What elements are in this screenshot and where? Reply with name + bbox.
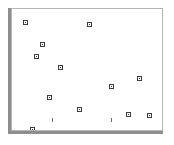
data-point — [126, 112, 131, 117]
data-point — [147, 113, 152, 118]
data-point — [87, 22, 92, 27]
data-point — [40, 42, 45, 47]
data-point — [77, 107, 82, 112]
data-point — [109, 84, 114, 89]
data-point — [23, 20, 28, 25]
plot-drawing-area — [12, 9, 162, 130]
data-point — [47, 95, 52, 100]
x-axis-tick — [52, 118, 53, 122]
scatter-plot-figure — [0, 0, 174, 145]
data-point — [30, 127, 35, 130]
data-point — [34, 54, 39, 59]
data-point — [137, 76, 142, 81]
x-axis-tick — [111, 118, 112, 122]
data-point — [58, 65, 63, 70]
